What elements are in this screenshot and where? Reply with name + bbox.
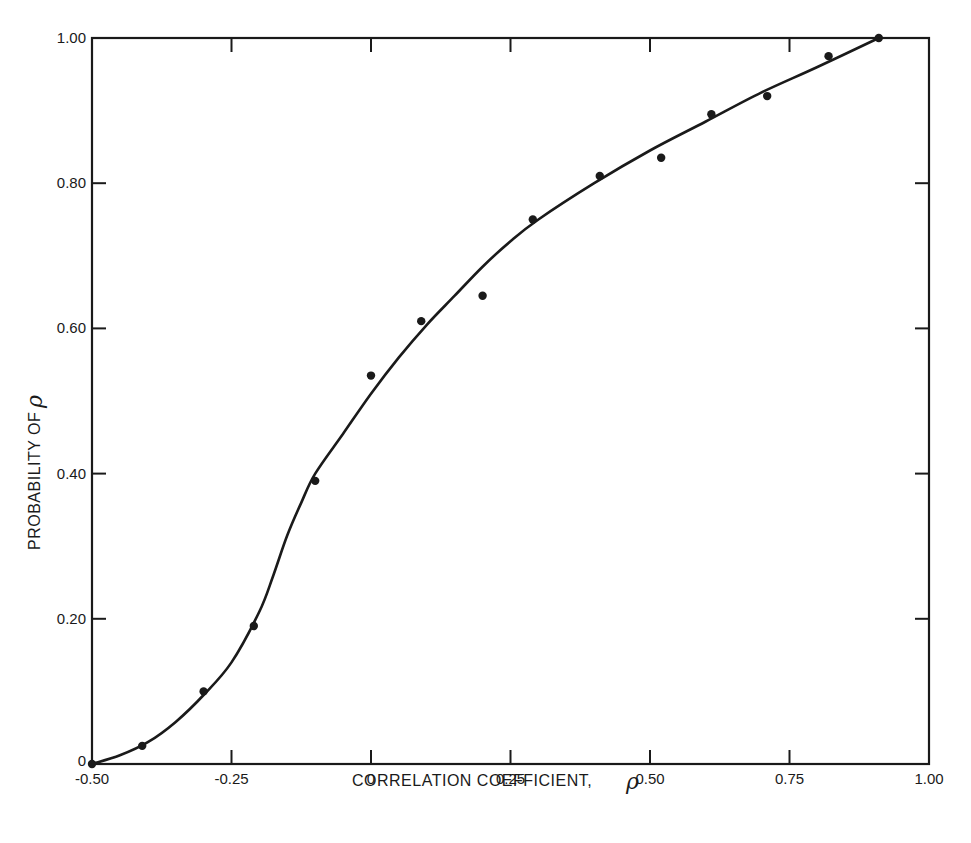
data-point bbox=[367, 371, 375, 379]
x-axis-rho-symbol: ρ bbox=[625, 769, 639, 794]
data-point bbox=[88, 760, 96, 768]
data-point bbox=[707, 110, 715, 118]
data-point bbox=[250, 622, 258, 630]
fitted-curve bbox=[92, 38, 879, 764]
x-tick-label: 0.50 bbox=[635, 770, 664, 787]
x-tick-label: 1.00 bbox=[914, 770, 943, 787]
y-tick-label: 1.00 bbox=[57, 29, 86, 46]
x-axis-ticks bbox=[232, 38, 790, 764]
y-axis-title: PROBABILITY OF ρ bbox=[22, 395, 47, 550]
data-point bbox=[417, 317, 425, 325]
data-point bbox=[478, 292, 486, 300]
x-tick-label: -0.25 bbox=[214, 770, 248, 787]
y-axis-title-text: PROBABILITY OF bbox=[26, 412, 43, 550]
data-point bbox=[596, 172, 604, 180]
x-axis-title: CORRELATION COEFFICIENT, ρ bbox=[352, 769, 639, 794]
data-point bbox=[657, 154, 665, 162]
y-tick-label: 0.40 bbox=[57, 465, 86, 482]
data-points bbox=[88, 34, 883, 768]
y-axis-rho-symbol: ρ bbox=[22, 395, 47, 409]
data-point bbox=[138, 742, 146, 750]
data-point bbox=[311, 477, 319, 485]
x-axis-title-text: CORRELATION COEFFICIENT, bbox=[352, 772, 592, 789]
data-point bbox=[529, 215, 537, 223]
y-tick-label: 0.80 bbox=[57, 174, 86, 191]
chart: -0.50-0.2500.250.500.751.00 00.200.400.6… bbox=[0, 0, 971, 843]
data-point bbox=[763, 92, 771, 100]
data-point bbox=[875, 34, 883, 42]
data-point bbox=[824, 52, 832, 60]
x-tick-label: 0.75 bbox=[775, 770, 804, 787]
y-tick-label: 0 bbox=[78, 752, 86, 769]
y-tick-label: 0.20 bbox=[57, 610, 86, 627]
x-tick-label: -0.50 bbox=[75, 770, 109, 787]
y-axis-tick-labels: 00.200.400.600.801.00 bbox=[57, 29, 86, 769]
y-tick-label: 0.60 bbox=[57, 319, 86, 336]
data-point bbox=[199, 687, 207, 695]
y-axis-ticks bbox=[92, 183, 929, 619]
plot-frame bbox=[92, 38, 929, 764]
